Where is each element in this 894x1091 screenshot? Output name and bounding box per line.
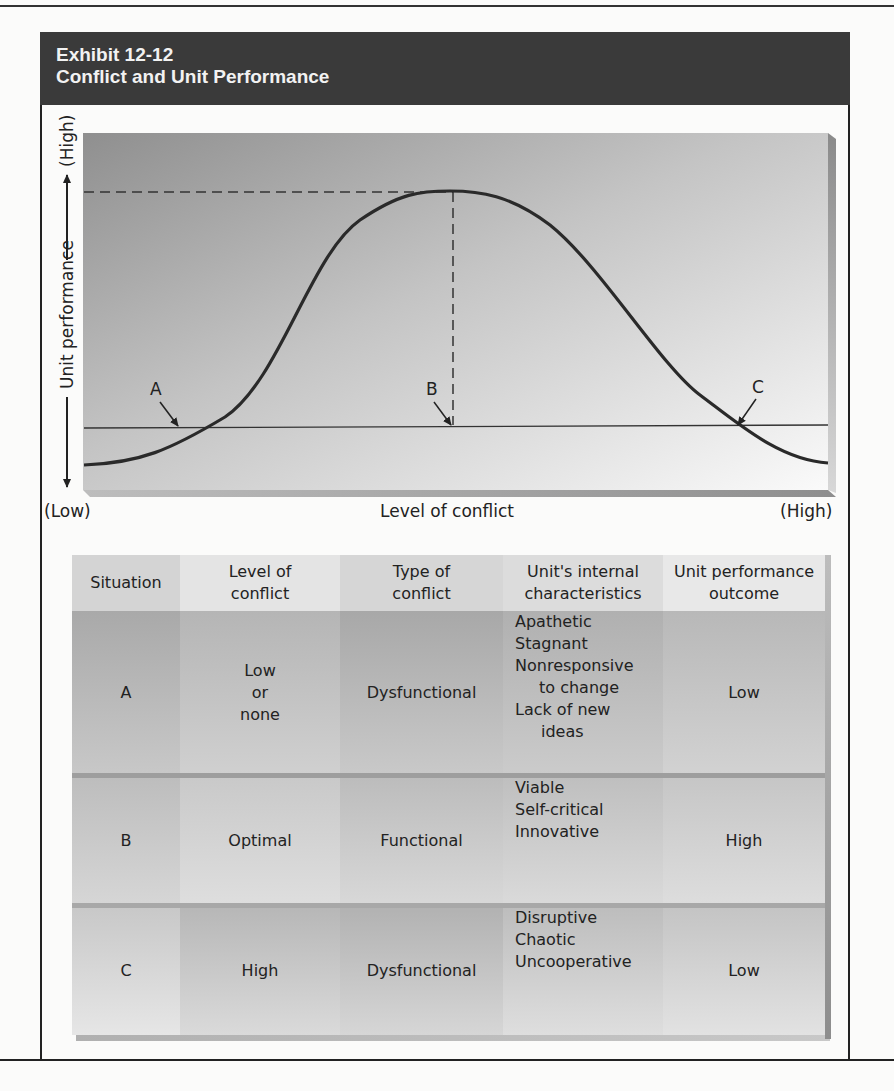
- exhibit-title: Conflict and Unit Performance: [56, 66, 850, 88]
- row-b-outcome: High: [663, 777, 825, 905]
- row-a-outcome: Low: [663, 611, 825, 775]
- row-a-situation: A: [72, 611, 180, 775]
- x-axis-label: Level of conflict: [380, 501, 514, 521]
- row-b-type: Functional: [340, 777, 503, 905]
- row-c-outcome: Low: [663, 907, 825, 1035]
- header-internal-characteristics: Unit's internal characteristics: [503, 555, 663, 611]
- row-c-characteristics: Disruptive Chaotic Uncooperative: [503, 907, 663, 1035]
- row-c-situation: C: [72, 907, 180, 1035]
- bottom-rule: [0, 1059, 894, 1061]
- y-axis-label: Unit performance: [57, 240, 77, 389]
- chart-plot-area: [83, 133, 828, 490]
- row-b-level: Optimal: [180, 777, 340, 905]
- header-performance-outcome: Unit performance outcome: [663, 555, 825, 611]
- row-c-type: Dysfunctional: [340, 907, 503, 1035]
- row-b-bottom-edge: [72, 903, 825, 908]
- header-type-of-conflict: Type of conflict: [340, 555, 503, 611]
- point-c-label: C: [752, 377, 764, 397]
- exhibit-number: Exhibit 12-12: [56, 44, 850, 66]
- row-a-bottom-edge: [72, 773, 825, 778]
- row-b-characteristics: Viable Self-critical Innovative: [503, 777, 663, 905]
- top-rule: [0, 5, 894, 7]
- y-axis-high-label: (High): [57, 115, 77, 167]
- point-b-label: B: [426, 379, 438, 399]
- chart-panel-right-edge: [828, 133, 836, 493]
- header-situation: Situation: [72, 555, 180, 611]
- x-axis-low-label: (Low): [44, 501, 91, 521]
- row-b-situation: B: [72, 777, 180, 905]
- table-right-edge: [825, 555, 831, 1039]
- chart-panel-bottom-edge: [83, 490, 836, 497]
- exhibit-header: Exhibit 12-12 Conflict and Unit Performa…: [40, 32, 850, 105]
- x-axis-high-label: (High): [780, 501, 832, 521]
- table-bottom-edge: [76, 1035, 830, 1041]
- header-level-of-conflict: Level of conflict: [180, 555, 340, 611]
- row-a-type: Dysfunctional: [340, 611, 503, 775]
- row-a-level: Low or none: [180, 611, 340, 775]
- row-a-characteristics: Apathetic Stagnant Nonresponsive to chan…: [503, 611, 663, 775]
- point-a-label: A: [150, 379, 162, 399]
- row-c-level: High: [180, 907, 340, 1035]
- performance-curve-chart: A B C Unit performance (High): [40, 105, 850, 505]
